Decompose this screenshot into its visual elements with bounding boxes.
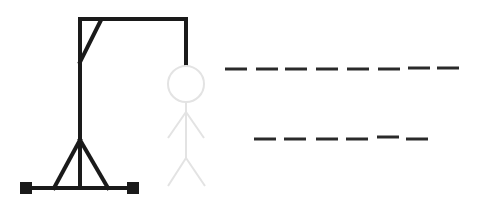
word-1-blanks: [225, 68, 459, 69]
hangman-right-leg: [186, 158, 205, 186]
hangman-left-leg: [168, 158, 186, 186]
gallows-base-right-foot: [127, 182, 139, 194]
word-2-blanks: [254, 137, 428, 139]
gallows-right-strut: [80, 140, 108, 188]
hangman-right-arm: [186, 112, 204, 138]
hangman-canvas: [0, 0, 482, 200]
gallows-left-strut: [54, 140, 80, 188]
hangman-figure: [168, 66, 205, 186]
hangman-head: [168, 66, 204, 102]
hangman-left-arm: [168, 112, 186, 138]
gallows-base-left-foot: [20, 182, 32, 194]
gallows: [20, 19, 186, 194]
gallows-brace: [80, 20, 101, 62]
